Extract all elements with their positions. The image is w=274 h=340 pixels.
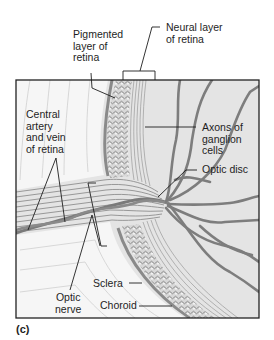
leader-neural [140,27,160,71]
label-line: retina [73,52,123,64]
label-line: Axons of [202,122,243,134]
label-line: Central [26,109,66,121]
panel-label: (c) [16,323,29,335]
label-choroid: Choroid [100,300,137,312]
label-line: cells [202,145,243,157]
label-line: Pigmented [73,29,123,41]
label-line: nerve [55,304,81,316]
label-line: of retina [26,144,66,156]
label-line: of retina [166,34,223,46]
label-line: and vein [26,132,66,144]
label-sclera: Sclera [93,278,123,290]
label-line: Optic [55,292,81,304]
bracket-neural [123,71,155,80]
label-optic-disc: Optic disc [202,164,248,176]
label-pigmented-layer: Pigmented layer of retina [73,29,123,64]
label-axons-ganglion: Axons of ganglion cells [202,122,243,157]
label-central-artery-vein: Central artery and vein of retina [26,109,66,155]
label-optic-nerve: Optic nerve [55,292,81,315]
label-line: Neural layer [166,22,223,34]
label-neural-layer: Neural layer of retina [166,22,223,45]
